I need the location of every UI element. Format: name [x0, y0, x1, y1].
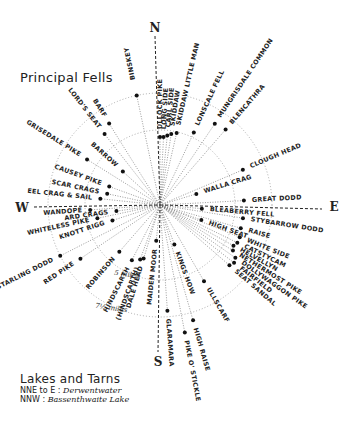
summit-dot	[107, 185, 111, 189]
summit-dot	[191, 318, 195, 322]
lake-direction: NNW :	[20, 395, 45, 404]
compass-south: S	[154, 355, 163, 369]
fell-spoke	[105, 134, 160, 205]
fell-labels: BINSKEYULLOCK PIKELONG SIDECARL SIDESKID…	[0, 37, 324, 402]
summit-dot	[105, 192, 109, 196]
summit-dot	[175, 131, 179, 135]
summit-dot	[117, 250, 121, 254]
fell-label: WALLA CRAG	[203, 173, 253, 195]
fell-spoke	[160, 205, 201, 220]
fell-label: GLARAMARA	[164, 318, 175, 366]
fell-label: MAIDEN MOOR	[145, 248, 159, 305]
summit-dot	[213, 122, 217, 126]
summit-dot	[130, 258, 134, 262]
summit-dot	[103, 132, 107, 136]
summit-dot	[200, 207, 204, 211]
lake-direction: NNE to E :	[20, 386, 60, 395]
fell-label: KINGS HOW	[174, 251, 197, 296]
diagram-title: Principal Fells	[20, 70, 113, 85]
summit-dot	[183, 331, 187, 335]
fell-label: ROBINSON	[84, 255, 117, 291]
fell-spoke	[160, 135, 167, 205]
summit-dot	[242, 199, 246, 203]
summit-dot	[202, 279, 206, 283]
lake-entry-1: NNE to E : Derwentwater	[20, 386, 129, 395]
summit-dot	[169, 132, 173, 136]
summit-dot	[121, 170, 125, 174]
fell-label: BARROW	[89, 140, 120, 169]
lakes-legend: Lakes and Tarns NNE to E : Derwentwater …	[20, 372, 129, 404]
fell-spoke	[160, 205, 229, 265]
summit-dot	[78, 257, 82, 261]
compass-axis	[34, 205, 160, 207]
fell-label: CLOUGH HEAD	[249, 141, 303, 170]
compass-axis	[158, 205, 160, 352]
fell-label: GREAT DODD	[252, 193, 302, 204]
fell-spoke	[160, 170, 243, 205]
summit-dot	[233, 256, 237, 260]
summit-dot	[241, 216, 245, 220]
fell-label: BINSKEY	[122, 46, 137, 80]
summit-dot	[154, 239, 158, 243]
summit-dot	[110, 218, 114, 222]
fell-label: ULLSCARF	[205, 286, 232, 324]
fell-spoke	[160, 205, 167, 311]
compass-north: N	[150, 21, 161, 35]
summit-dot	[158, 135, 162, 139]
summit-dot	[192, 130, 196, 134]
fell-label: HIGH SEAT	[208, 219, 250, 241]
lake-name: Bassenthwaite Lake	[48, 395, 129, 404]
fell-spoke	[160, 132, 194, 205]
summit-dot	[231, 249, 235, 253]
summit-dot	[194, 192, 198, 196]
fell-spoke	[160, 205, 174, 244]
summit-dot	[172, 242, 176, 246]
summit-dot	[241, 168, 245, 172]
fell-spoke	[123, 172, 160, 205]
fell-spoke	[112, 205, 160, 220]
lakes-heading: Lakes and Tarns	[20, 372, 129, 386]
compass-west: W	[14, 201, 29, 215]
lake-entry-2: NNW : Bassenthwaite Lake	[20, 395, 129, 404]
summit-dot	[162, 135, 166, 139]
fell-label: GRISEDALE PIKE	[25, 118, 83, 158]
summit-dot	[165, 309, 169, 313]
summit-dot	[98, 197, 102, 201]
fell-spoke	[160, 130, 226, 205]
lake-name: Derwentwater	[63, 386, 121, 395]
summit-dot	[138, 258, 142, 262]
radial-fell-diagram: 5 miles7½ miles BINSKEYULLOCK PIKELONG S…	[0, 0, 357, 430]
summit-dot	[107, 122, 111, 126]
compass-east: E	[329, 200, 338, 214]
summit-dot	[232, 261, 236, 265]
fell-spoke	[116, 205, 160, 211]
summit-dot	[235, 241, 239, 245]
summit-dot	[227, 263, 231, 267]
summit-dot	[114, 209, 118, 213]
summit-dot	[85, 157, 89, 161]
summit-dot	[135, 93, 139, 97]
summit-dot	[165, 133, 169, 137]
summit-dot	[142, 257, 146, 261]
summit-dot	[58, 254, 62, 258]
summit-dot	[224, 128, 228, 132]
fell-spoke	[119, 205, 160, 252]
fell-spoke	[160, 133, 177, 205]
summit-dot	[231, 244, 235, 248]
